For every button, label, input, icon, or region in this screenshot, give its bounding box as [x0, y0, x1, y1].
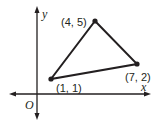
- origin-label: O: [25, 98, 34, 112]
- y-axis-up-arrow-icon: [35, 6, 40, 13]
- vertex-label-4-5: (4, 5): [61, 16, 87, 28]
- vertex-point-1-1: [48, 76, 53, 81]
- vertex-point-4-5: [92, 18, 97, 23]
- y-axis-down-arrow-icon: [35, 113, 40, 120]
- y-axis: [35, 6, 40, 120]
- x-axis-left-arrow-icon: [9, 92, 16, 97]
- vertex-label-1-1: (1, 1): [56, 82, 82, 94]
- vertex-label-7-2: (7, 2): [125, 71, 151, 83]
- vertex-point-7-2: [134, 61, 139, 66]
- coordinate-plane: y x O (4, 5) (7, 2) (1, 1): [0, 0, 161, 128]
- y-axis-label: y: [41, 7, 48, 21]
